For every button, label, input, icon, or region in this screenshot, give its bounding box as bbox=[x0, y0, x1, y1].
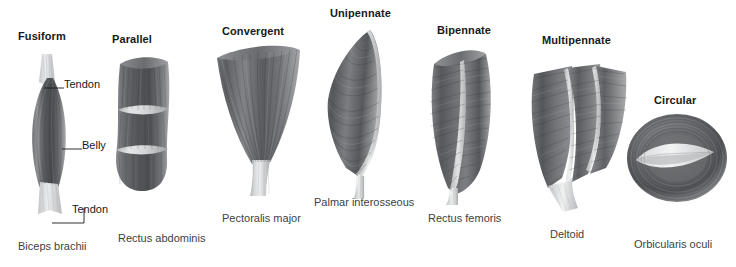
caption-pectoralis-major: Pectoralis major bbox=[222, 212, 301, 224]
header-bipennate: Bipennate bbox=[437, 24, 491, 36]
illustration-circular bbox=[622, 108, 736, 212]
header-circular: Circular bbox=[654, 94, 696, 106]
illustration-bipennate bbox=[424, 44, 516, 206]
header-convergent: Convergent bbox=[222, 25, 284, 37]
caption-deltoid: Deltoid bbox=[550, 228, 584, 240]
leader-line-belly bbox=[62, 145, 84, 153]
caption-rectus-abdominis: Rectus abdominis bbox=[118, 232, 205, 244]
illustration-unipennate bbox=[318, 26, 408, 201]
header-fusiform: Fusiform bbox=[18, 30, 66, 42]
caption-orbicularis-oculi: Orbicularis oculi bbox=[634, 238, 712, 250]
callout-belly: Belly bbox=[82, 139, 106, 151]
caption-rectus-femoris: Rectus femoris bbox=[428, 212, 501, 224]
leader-line-tendon-upper bbox=[44, 84, 66, 92]
caption-palmar-interosseous: Palmar interosseous bbox=[314, 196, 414, 208]
header-parallel: Parallel bbox=[112, 33, 152, 45]
callout-tendon-lower: Tendon bbox=[72, 203, 108, 215]
caption-biceps-brachii: Biceps brachii bbox=[18, 240, 86, 252]
callout-tendon-upper: Tendon bbox=[64, 78, 100, 90]
illustration-convergent bbox=[214, 44, 310, 199]
illustration-parallel bbox=[110, 52, 182, 197]
illustration-fusiform bbox=[22, 52, 92, 217]
header-unipennate: Unipennate bbox=[330, 7, 391, 19]
header-multipennate: Multipennate bbox=[542, 34, 611, 46]
